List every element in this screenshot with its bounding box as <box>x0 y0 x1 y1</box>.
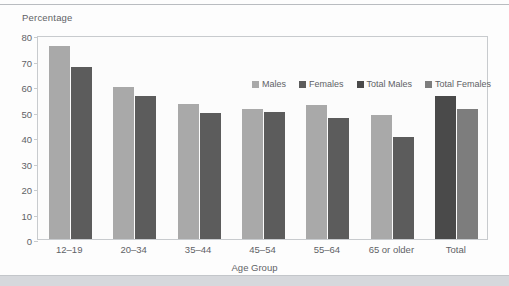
y-tick-label: 50 <box>21 108 32 119</box>
legend-item: Total Males <box>357 79 413 89</box>
bar <box>457 109 478 239</box>
bar <box>135 96 156 239</box>
bars-layer <box>38 37 487 239</box>
top-divider <box>0 4 509 5</box>
bar-group <box>167 37 231 239</box>
bar-group <box>102 37 166 239</box>
legend-label: Females <box>309 79 344 89</box>
bar-group <box>425 37 489 239</box>
y-tick-label: 30 <box>21 159 32 170</box>
bar <box>49 46 70 239</box>
bar <box>393 137 414 239</box>
bar <box>200 113 221 239</box>
y-axis-title: Percentage <box>22 12 73 23</box>
bar <box>328 118 349 239</box>
bar <box>242 109 263 239</box>
bar <box>264 112 285 240</box>
bar <box>178 104 199 239</box>
y-tick-label: 80 <box>21 32 32 43</box>
footer-band <box>0 276 509 286</box>
y-tick-label: 10 <box>21 210 32 221</box>
x-tick-label: 35–44 <box>185 244 211 255</box>
x-tick-label: 55–64 <box>314 244 340 255</box>
x-tick-label: 20–34 <box>120 244 146 255</box>
x-tick-label: 45–54 <box>249 244 275 255</box>
legend-item: Females <box>299 79 344 89</box>
x-tick-label: 65 or older <box>369 244 414 255</box>
legend-swatch-icon <box>425 81 432 88</box>
bar <box>435 96 456 239</box>
y-tick-label: 70 <box>21 57 32 68</box>
y-tick-label: 0 <box>27 236 32 247</box>
legend-swatch-icon <box>252 81 259 88</box>
bar-group <box>231 37 295 239</box>
chart-figure: Percentage 01020304050607080 MalesFemale… <box>0 0 509 286</box>
bar <box>371 115 392 239</box>
bar <box>113 87 134 239</box>
bar-group <box>296 37 360 239</box>
legend-item: Males <box>252 79 286 89</box>
x-tick-label: 12–19 <box>56 244 82 255</box>
y-tick-label: 40 <box>21 134 32 145</box>
y-tick-label: 60 <box>21 83 32 94</box>
legend-item: Total Females <box>425 79 491 89</box>
legend-label: Males <box>262 79 286 89</box>
chart-legend: MalesFemalesTotal MalesTotal Females <box>252 79 491 89</box>
bar <box>306 105 327 239</box>
plot-area: 01020304050607080 MalesFemalesTotal Male… <box>37 36 488 240</box>
legend-label: Total Males <box>367 79 413 89</box>
bar <box>71 67 92 239</box>
legend-swatch-icon <box>357 81 364 88</box>
y-tick-label: 20 <box>21 185 32 196</box>
y-tick-mark <box>34 241 38 242</box>
x-tick-label: Total <box>446 244 466 255</box>
legend-swatch-icon <box>299 81 306 88</box>
x-axis-title: Age Group <box>0 262 509 273</box>
legend-label: Total Females <box>435 79 491 89</box>
bar-group <box>38 37 102 239</box>
bar-group <box>360 37 424 239</box>
